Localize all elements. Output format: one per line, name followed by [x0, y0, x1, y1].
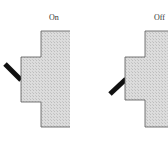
switch-body-off [125, 31, 168, 127]
label-on: On [49, 13, 59, 22]
toggle-lever-on [5, 64, 21, 80]
label-off: Off [154, 13, 165, 22]
switch-body-on [21, 31, 70, 127]
switch-on [5, 31, 70, 127]
switch-off [110, 31, 168, 127]
switch-diagram [0, 0, 168, 142]
toggle-lever-off [110, 79, 126, 94]
